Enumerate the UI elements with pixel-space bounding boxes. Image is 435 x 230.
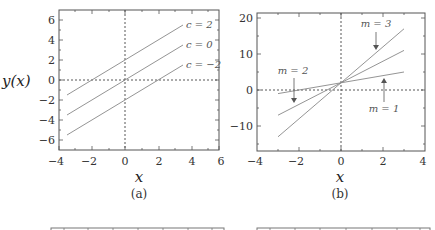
panel-label-a: (a) — [131, 187, 148, 201]
x-axis-label-b: x — [336, 168, 345, 186]
panel-b: m = 3 m = 2 m = 1 20 10 0 −10 −4 −2 0 2 … — [230, 12, 427, 201]
svg-text:m = 2: m = 2 — [278, 65, 309, 76]
svg-text:−4: −4 — [247, 155, 263, 168]
svg-text:0: 0 — [246, 84, 253, 97]
plot-frame-c-partial — [51, 228, 224, 230]
x-axis-label-a: x — [135, 168, 144, 186]
svg-text:m = 1: m = 1 — [369, 103, 400, 114]
panel-a: c = 2 c = 0 c = −2 6 4 2 0 −2 −4 −6 −4 −… — [1, 10, 225, 201]
arrow-up-icon — [381, 78, 387, 83]
legend-c-0: c = 0 — [186, 39, 213, 50]
figure: c = 2 c = 0 c = −2 6 4 2 0 −2 −4 −6 −4 −… — [0, 0, 435, 230]
arrow-down-icon — [373, 45, 379, 50]
arrow-down-icon — [291, 98, 297, 103]
svg-text:2: 2 — [156, 155, 163, 168]
svg-text:0: 0 — [48, 74, 55, 87]
svg-text:−2: −2 — [39, 94, 55, 107]
svg-text:6: 6 — [218, 155, 225, 168]
svg-text:2: 2 — [48, 54, 55, 67]
svg-text:20: 20 — [239, 12, 253, 25]
plot-frame-d-partial — [257, 228, 430, 230]
svg-text:−4: −4 — [48, 155, 64, 168]
svg-text:m = 3: m = 3 — [361, 18, 392, 29]
y-axis-label-a: y(x) — [1, 72, 31, 90]
svg-text:−6: −6 — [39, 134, 55, 147]
svg-text:−2: −2 — [288, 155, 304, 168]
svg-text:4: 4 — [189, 155, 196, 168]
annotation-m2: m = 2 — [278, 65, 309, 103]
svg-text:4: 4 — [420, 155, 427, 168]
svg-text:0: 0 — [338, 155, 345, 168]
svg-text:2: 2 — [380, 155, 387, 168]
svg-text:−4: −4 — [39, 114, 55, 127]
svg-text:10: 10 — [239, 48, 253, 61]
y-tick-labels-b: 20 10 0 −10 — [230, 12, 253, 133]
lower-panels-partial — [51, 228, 430, 230]
x-tick-labels-a: −4 −2 0 2 4 6 — [48, 155, 225, 168]
legend-c-2: c = 2 — [186, 19, 213, 30]
annotation-m3: m = 3 — [361, 18, 392, 50]
svg-text:0: 0 — [122, 155, 129, 168]
y-tick-labels-a: 6 4 2 0 −2 −4 −6 — [39, 14, 55, 147]
svg-text:−2: −2 — [81, 155, 97, 168]
svg-text:−10: −10 — [230, 120, 253, 133]
panel-label-b: (b) — [331, 187, 348, 201]
svg-text:4: 4 — [48, 34, 55, 47]
legend-c-neg2: c = −2 — [186, 59, 221, 70]
annotation-m1: m = 1 — [369, 78, 400, 114]
svg-text:6: 6 — [48, 14, 55, 27]
x-tick-labels-b: −4 −2 0 2 4 — [247, 155, 427, 168]
